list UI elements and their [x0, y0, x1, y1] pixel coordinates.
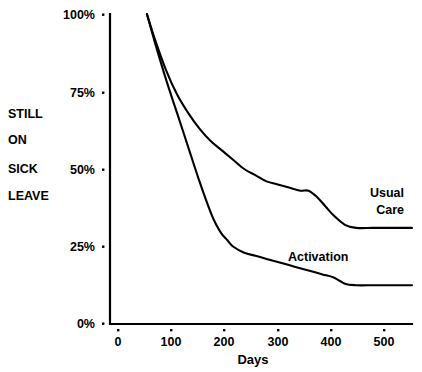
sick-leave-survival-chart: 100% 75% 50% 25% 0% 0 100 200 300 400 50… [0, 0, 422, 372]
x-tick-label-100: 100 [161, 335, 182, 349]
y-tick-label-25: 25% [70, 240, 95, 254]
x-tick-mark-100 [170, 329, 172, 331]
y-tick-mark-100 [102, 14, 104, 16]
series-label-usual-care-line-2: Care [376, 203, 404, 217]
y-axis-title-line-1: STILL [8, 107, 43, 121]
y-tick-mark-0 [102, 323, 104, 325]
x-tick-label-200: 200 [214, 335, 235, 349]
x-tick-label-300: 300 [268, 335, 289, 349]
y-tick-label-100: 100% [63, 8, 95, 22]
x-tick-mark-500 [383, 329, 385, 331]
x-tick-label-0: 0 [115, 335, 122, 349]
chart-background [0, 0, 422, 372]
series-label-usual-care-line-1: Usual [370, 186, 404, 200]
x-tick-label-500: 500 [374, 335, 395, 349]
y-tick-label-50: 50% [70, 163, 95, 177]
y-tick-label-0: 0% [77, 317, 95, 331]
y-axis-title-line-4: LEAVE [8, 189, 49, 203]
series-label-activation: Activation [288, 250, 348, 264]
x-tick-mark-0 [117, 329, 119, 331]
x-tick-label-400: 400 [321, 335, 342, 349]
y-axis-title-line-2: ON [8, 133, 27, 147]
y-tick-mark-25 [102, 246, 104, 248]
x-axis-title: Days [237, 352, 268, 367]
y-tick-label-75: 75% [70, 86, 95, 100]
x-tick-mark-200 [223, 329, 225, 331]
y-tick-mark-50 [102, 169, 104, 171]
x-tick-mark-400 [330, 329, 332, 331]
y-axis-title-line-3: SICK [8, 162, 38, 176]
x-tick-mark-300 [277, 329, 279, 331]
y-tick-mark-75 [102, 92, 104, 94]
